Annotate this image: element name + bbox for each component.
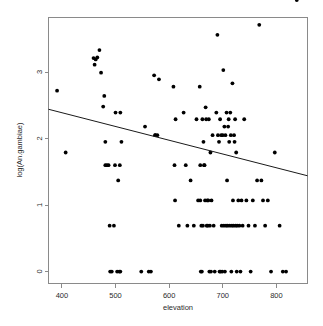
data-point	[255, 179, 259, 183]
data-point	[200, 117, 204, 121]
y-tick-label: 0	[35, 269, 44, 273]
data-point	[98, 48, 102, 52]
data-point	[244, 198, 248, 202]
data-point	[118, 270, 122, 274]
data-point	[209, 270, 213, 274]
data-point	[114, 111, 118, 115]
data-point	[247, 224, 251, 228]
data-point	[195, 117, 199, 121]
data-point	[223, 270, 227, 274]
data-point	[253, 224, 257, 228]
data-point	[259, 179, 263, 183]
data-point	[226, 125, 230, 129]
data-point	[266, 198, 270, 202]
data-point	[269, 270, 273, 274]
data-point	[198, 85, 202, 89]
scatter-plot-figure: 400500600700800 0123 elevation log(An.ga…	[0, 0, 323, 326]
data-point	[172, 85, 176, 89]
data-point	[240, 198, 244, 202]
data-point	[157, 77, 161, 81]
data-point	[189, 179, 193, 183]
data-point	[208, 224, 212, 228]
regression-line-layer	[49, 109, 308, 176]
data-point	[213, 270, 217, 274]
y-tick-label: 3	[35, 70, 44, 74]
x-tick-label: 500	[109, 291, 122, 300]
data-point	[184, 163, 188, 167]
data-point	[233, 117, 237, 121]
y-tick-label: 1	[35, 203, 44, 207]
data-point	[217, 140, 221, 144]
data-point	[218, 117, 222, 121]
data-point	[211, 133, 215, 137]
data-point	[231, 81, 235, 85]
data-point	[210, 198, 214, 202]
data-point	[229, 270, 233, 274]
data-point	[101, 105, 105, 109]
data-point	[207, 117, 211, 121]
data-point	[232, 133, 236, 137]
data-point	[182, 111, 186, 115]
data-point	[261, 198, 265, 202]
data-point	[216, 33, 220, 37]
data-point	[224, 133, 228, 137]
plot-canvas: 400500600700800 0123 elevation log(An.ga…	[0, 0, 323, 326]
data-point	[222, 125, 226, 129]
data-point	[198, 198, 202, 202]
data-point	[112, 224, 116, 228]
data-point	[295, 0, 299, 2]
data-point	[108, 224, 112, 228]
data-point	[116, 179, 120, 183]
data-point	[118, 111, 122, 115]
data-point	[225, 111, 229, 115]
data-point	[228, 111, 232, 115]
data-point	[174, 117, 178, 121]
data-point	[235, 270, 239, 274]
data-point	[173, 163, 177, 167]
data-point	[241, 224, 245, 228]
data-point	[107, 163, 111, 167]
data-point	[234, 151, 238, 155]
plot-frame	[49, 18, 308, 284]
data-point	[103, 140, 107, 144]
data-point	[231, 198, 235, 202]
data-point	[149, 270, 153, 274]
data-point	[251, 198, 255, 202]
data-point	[99, 71, 103, 75]
x-tick-label: 800	[270, 291, 283, 300]
data-point	[198, 163, 202, 167]
data-point	[143, 125, 147, 129]
data-point	[93, 63, 97, 67]
data-point	[185, 224, 189, 228]
data-point	[227, 140, 231, 144]
data-point	[239, 270, 243, 274]
data-point	[64, 151, 68, 155]
data-point	[242, 117, 246, 121]
data-point	[177, 224, 181, 228]
x-axis-title: elevation	[163, 303, 193, 312]
data-point	[152, 73, 156, 77]
data-point	[201, 224, 205, 228]
data-point	[225, 179, 229, 183]
data-point	[55, 89, 59, 93]
data-point	[278, 224, 282, 228]
data-point	[221, 68, 225, 72]
x-tick-label: 400	[56, 291, 69, 300]
y-axis-title: log(An.gambiae)	[15, 122, 24, 178]
x-tick-label: 700	[217, 291, 230, 300]
data-point	[95, 56, 99, 60]
data-point	[204, 105, 208, 109]
data-point	[173, 198, 177, 202]
data-point	[203, 163, 207, 167]
data-point	[120, 140, 124, 144]
data-point	[113, 163, 117, 167]
data-point	[118, 163, 122, 167]
data-point	[214, 111, 218, 115]
data-points-layer	[55, 0, 298, 273]
x-tick-label: 600	[163, 291, 176, 300]
data-point	[202, 140, 206, 144]
data-point	[200, 270, 204, 274]
data-point	[257, 23, 261, 27]
data-point	[139, 270, 143, 274]
regression-line	[49, 109, 308, 176]
